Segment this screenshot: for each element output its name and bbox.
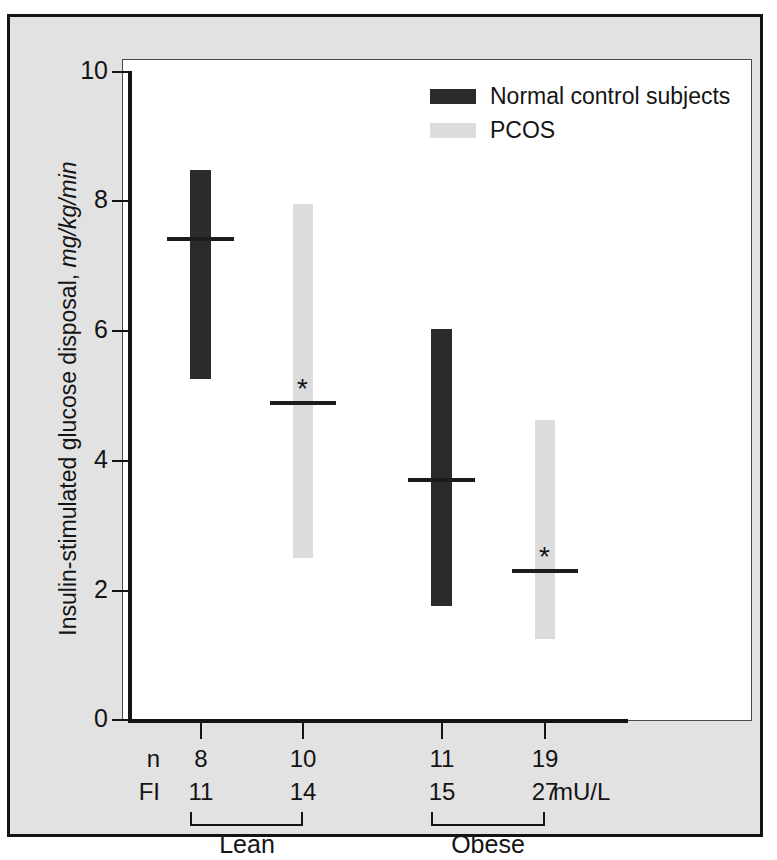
legend-label-normal-control: Normal control subjects: [490, 83, 730, 110]
y-axis-title-text: Insulin-stimulated glucose disposal,: [55, 274, 81, 636]
range-bar-obese-control: [431, 329, 452, 606]
cell-n-obese-control: 11: [397, 747, 487, 771]
y-axis-line: [128, 71, 132, 723]
significance-star-obese-pcos: *: [539, 543, 550, 571]
cell-n-lean-control: 8: [156, 747, 246, 771]
row-label-n: n: [110, 747, 160, 771]
cell-fi-lean-pcos: 14: [258, 780, 348, 804]
row-label-fi: FI: [110, 780, 160, 804]
cell-fi-obese-control: 15: [397, 780, 487, 804]
legend: Normal control subjects PCOS: [430, 79, 730, 147]
group-bracket-lean: [190, 812, 303, 826]
x-tick-obese-pcos: [544, 723, 546, 739]
y-axis-title-unit: mg/kg/min: [55, 161, 81, 267]
y-tick-6: [112, 330, 128, 332]
figure-container: 10 8 6 4 2 0 Insulin-stimulated glucose …: [0, 0, 777, 860]
group-label-lean: Lean: [147, 832, 347, 857]
group-label-obese: Obese: [388, 832, 588, 857]
mean-line-lean-control: [167, 237, 234, 241]
legend-item-pcos: PCOS: [430, 113, 730, 147]
figure-panel: 10 8 6 4 2 0 Insulin-stimulated glucose …: [7, 14, 763, 837]
legend-swatch-pcos: [430, 123, 476, 138]
legend-swatch-normal-control: [430, 89, 476, 104]
legend-item-normal-control: Normal control subjects: [430, 79, 730, 113]
y-axis-title: Insulin-stimulated glucose disposal, mg/…: [55, 79, 82, 719]
cell-fi-lean-control: 11: [156, 780, 246, 804]
x-tick-lean-control: [200, 723, 202, 739]
mean-line-obese-control: [408, 478, 475, 482]
units-label: mU/L: [553, 780, 713, 804]
cell-n-obese-pcos: 19: [500, 747, 590, 771]
cell-n-lean-pcos: 10: [258, 747, 348, 771]
y-tick-4: [112, 460, 128, 462]
x-tick-obese-control: [441, 723, 443, 739]
x-tick-lean-pcos: [302, 723, 304, 739]
legend-label-pcos: PCOS: [490, 117, 555, 144]
y-tick-10: [112, 71, 128, 73]
y-tick-0: [112, 719, 128, 721]
x-axis-line: [128, 719, 628, 723]
range-bar-obese-pcos: [535, 420, 555, 639]
significance-star-lean-pcos: *: [297, 375, 308, 403]
y-tick-8: [112, 200, 128, 202]
y-tick-2: [112, 590, 128, 592]
group-bracket-obese: [431, 812, 545, 826]
range-bar-lean-control: [190, 170, 211, 379]
